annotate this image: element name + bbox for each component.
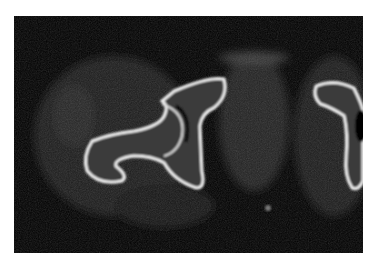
midline-structure [265, 205, 271, 211]
ct-scan-graphic [14, 16, 363, 253]
ct-image-frame [14, 16, 363, 253]
